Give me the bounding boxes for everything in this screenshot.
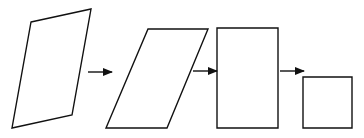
- shape-transformation-diagram: [0, 0, 364, 138]
- parallelogram-shape: [106, 29, 208, 128]
- skewed-quadrilateral-shape: [12, 9, 91, 128]
- square-shape: [303, 77, 352, 128]
- rectangle-shape: [217, 28, 278, 128]
